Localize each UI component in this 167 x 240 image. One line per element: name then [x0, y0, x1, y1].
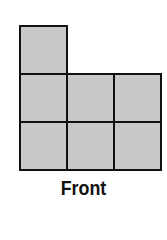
cell-r2-c0	[19, 121, 68, 171]
cell-r1-c0	[19, 73, 68, 123]
view-label: Front	[13, 176, 155, 200]
cell-r1-c1	[66, 73, 115, 123]
cell-r0-c0	[19, 25, 68, 75]
cell-r2-c2	[113, 121, 162, 171]
cell-r1-c2	[113, 73, 162, 123]
cell-r2-c1	[66, 121, 115, 171]
